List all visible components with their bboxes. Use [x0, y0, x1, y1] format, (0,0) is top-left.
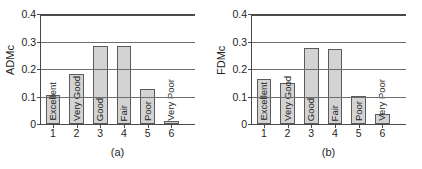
x-tick-label-6-a: 6: [168, 127, 174, 139]
y-tick-label-0.1-b: 0.1: [232, 91, 247, 103]
bar-4-a[interactable]: [117, 46, 132, 124]
panel-caption-a: (a): [40, 146, 195, 158]
plot-area-b: ExcellentVery GoodGoodFairPoorVery Poor …: [251, 14, 406, 125]
bar-4-b[interactable]: [328, 49, 343, 124]
y-tick-mark-a: [37, 42, 41, 43]
bar-5-b[interactable]: [351, 96, 366, 124]
x-tick-label-4-b: 4: [332, 127, 338, 139]
y-tick-label-0.4-a: 0.4: [21, 8, 36, 20]
y-tick-label-0.4-b: 0.4: [232, 8, 247, 20]
y-tick-mark-a: [37, 69, 41, 70]
gridline-y-0.3-a: [41, 42, 195, 43]
y-tick-label-0.1-a: 0.1: [21, 91, 36, 103]
y-tick-mark-a: [37, 124, 41, 125]
y-tick-mark-a: [37, 97, 41, 98]
chart-panel-a: ADMc ExcellentVery GoodGoodFairPoorVery …: [0, 0, 211, 169]
bar-3-b[interactable]: [304, 48, 319, 124]
gridline-y-0.3-b: [252, 42, 406, 43]
x-tick-label-2-b: 2: [285, 127, 291, 139]
x-tick-label-2-a: 2: [74, 127, 80, 139]
bar-1-b[interactable]: [257, 79, 272, 124]
y-tick-mark-b: [248, 14, 252, 15]
y-tick-label-0-a: 0: [30, 118, 36, 130]
panel-caption-b: (b): [251, 146, 406, 158]
gridline-y-0.1-a: [41, 97, 195, 98]
gridline-y-0.1-b: [252, 97, 406, 98]
y-tick-label-0.2-a: 0.2: [21, 63, 36, 75]
y-axis-label-b: FDMc: [213, 0, 229, 120]
bar-6-b[interactable]: [375, 114, 390, 124]
y-axis-label-a: ADMc: [2, 0, 18, 120]
bar-5-a[interactable]: [140, 89, 155, 124]
gridline-y-0.2-a: [41, 69, 195, 70]
y-tick-mark-b: [248, 97, 252, 98]
bar-2-a[interactable]: [69, 74, 84, 124]
x-tick-label-4-a: 4: [121, 127, 127, 139]
chart-panel-b: FDMc ExcellentVery GoodGoodFairPoorVery …: [211, 0, 422, 169]
x-tick-label-3-b: 3: [308, 127, 314, 139]
x-tick-label-1-a: 1: [50, 127, 56, 139]
y-tick-label-0-b: 0: [241, 118, 247, 130]
bar-rating-label-6-a: Very Poor: [167, 79, 177, 121]
y-tick-mark-a: [37, 14, 41, 15]
y-tick-label-0.3-b: 0.3: [232, 36, 247, 48]
y-tick-mark-b: [248, 69, 252, 70]
x-tick-label-5-b: 5: [356, 127, 362, 139]
x-tick-label-1-b: 1: [261, 127, 267, 139]
bar-3-a[interactable]: [93, 46, 108, 124]
x-tick-label-6-b: 6: [379, 127, 385, 139]
bar-2-b[interactable]: [280, 83, 295, 124]
x-tick-label-5-a: 5: [145, 127, 151, 139]
gridline-y-0.2-b: [252, 69, 406, 70]
bar-1-a[interactable]: [46, 95, 61, 124]
y-tick-mark-b: [248, 42, 252, 43]
plot-area-a: ExcellentVery GoodGoodFairPoorVery Poor …: [40, 14, 195, 125]
x-tick-label-3-a: 3: [97, 127, 103, 139]
figure-two-bar-charts: ADMc ExcellentVery GoodGoodFairPoorVery …: [0, 0, 422, 169]
y-tick-label-0.2-b: 0.2: [232, 63, 247, 75]
y-tick-mark-b: [248, 124, 252, 125]
y-tick-label-0.3-a: 0.3: [21, 36, 36, 48]
